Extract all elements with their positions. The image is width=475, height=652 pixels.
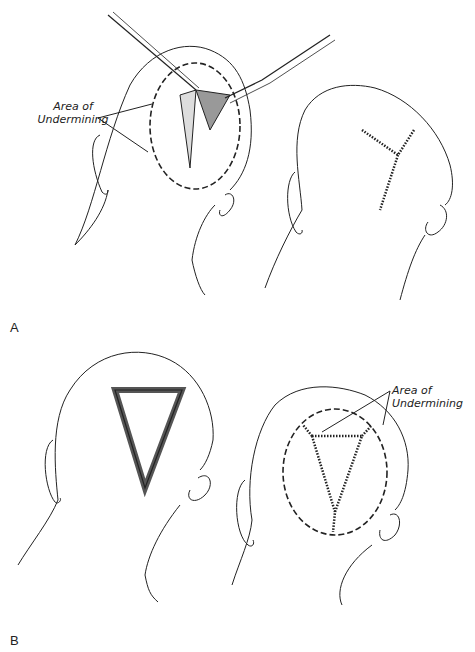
panel-a-head-right (265, 85, 452, 300)
area-of-undermining-label-b: Area of Undermining (392, 384, 463, 410)
panel-label-a: A (10, 320, 19, 335)
label-b-line1: Area of (392, 384, 463, 397)
label-b-line2: Undermining (392, 397, 463, 410)
panel-a-head-left (75, 12, 335, 295)
area-of-undermining-label-a: Area of Undermining (33, 100, 113, 126)
label-a-line2: Undermining (33, 113, 113, 126)
panel-b-head-left (18, 352, 213, 602)
surgical-illustration (0, 0, 475, 652)
panel-b-head-right (232, 387, 408, 605)
label-a-line1: Area of (33, 100, 113, 113)
panel-label-b: B (10, 633, 19, 648)
